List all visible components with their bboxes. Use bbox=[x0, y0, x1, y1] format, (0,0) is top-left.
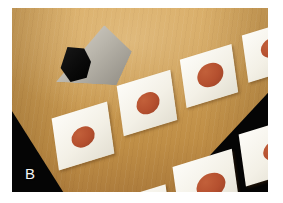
panel-label: B bbox=[25, 166, 36, 181]
photograph: B bbox=[12, 8, 268, 192]
card-1-dot bbox=[70, 123, 96, 150]
card-3-dot bbox=[196, 60, 225, 91]
card-2-dot bbox=[135, 89, 161, 117]
card-8[interactable] bbox=[239, 117, 268, 186]
card-7-dot bbox=[195, 169, 227, 192]
figure-panel: B bbox=[0, 0, 283, 203]
card-8-dot bbox=[262, 136, 268, 164]
card-4-dot bbox=[260, 35, 268, 61]
